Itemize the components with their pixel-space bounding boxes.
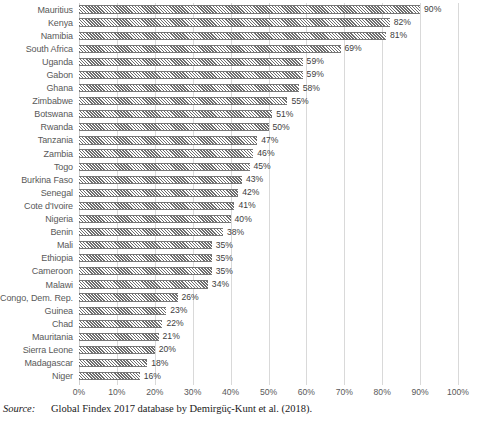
category-label: Kenya (0, 18, 76, 28)
bar-area: 26% (76, 291, 483, 304)
bar (79, 293, 178, 301)
bar-area: 20% (76, 343, 483, 356)
bar (79, 202, 234, 210)
category-label: Tanzania (0, 135, 76, 145)
bar-value-label: 21% (163, 331, 180, 342)
bar-area: 16% (76, 370, 483, 383)
bar (79, 320, 162, 328)
bar (79, 18, 390, 26)
bar (79, 5, 420, 13)
bar (79, 110, 272, 118)
category-label: Mauritius (0, 5, 76, 15)
category-label: Congo, Dem. Rep. (0, 293, 76, 303)
bar-chart-figure: Mauritius90%Kenya82%Namibia81%South Afri… (0, 0, 483, 422)
bar-area: 45% (76, 160, 483, 173)
category-label: Zambia (0, 149, 76, 159)
bar-value-label: 46% (257, 148, 274, 159)
chart-row: Ethiopia35% (0, 252, 483, 265)
category-label: Botswana (0, 109, 76, 119)
bar (79, 71, 303, 79)
bar-area: 23% (76, 304, 483, 317)
category-label: Mauritania (0, 332, 76, 342)
chart-row: Zimbabwe55% (0, 95, 483, 108)
bar (79, 267, 212, 275)
bar (79, 97, 287, 105)
bar-value-label: 34% (212, 279, 229, 290)
category-label: Uganda (0, 57, 76, 67)
chart-row: Nigeria40% (0, 213, 483, 226)
x-tick-label: 90% (411, 386, 428, 398)
chart-row: Guinea23% (0, 304, 483, 317)
bar (79, 359, 147, 367)
bar-value-label: 23% (170, 305, 187, 316)
plot-region: Mauritius90%Kenya82%Namibia81%South Afri… (0, 3, 483, 385)
bar (79, 149, 253, 157)
bar-area: 51% (76, 108, 483, 121)
category-label: Namibia (0, 31, 76, 41)
category-label: Senegal (0, 188, 76, 198)
x-tick-label: 30% (184, 386, 201, 398)
bar-value-label: 26% (182, 292, 199, 303)
bar-value-label: 22% (166, 318, 183, 329)
source-note: Source:Global Findex 2017 database by De… (3, 402, 473, 415)
x-axis: 0%10%20%30%40%50%60%70%80%90%100% (0, 386, 483, 400)
bar-value-label: 42% (242, 187, 259, 198)
bar (79, 58, 303, 66)
bar-value-label: 18% (151, 358, 168, 369)
chart-row: Zambia46% (0, 147, 483, 160)
bar-area: 42% (76, 186, 483, 199)
category-label: South Africa (0, 44, 76, 54)
bar (79, 163, 250, 171)
bar-area: 35% (76, 239, 483, 252)
bar (79, 136, 257, 144)
chart-row: Gabon59% (0, 68, 483, 81)
source-text: Global Findex 2017 database by Demirgüç-… (51, 403, 312, 414)
category-label: Mali (0, 240, 76, 250)
bar-area: 35% (76, 252, 483, 265)
bar-area: 43% (76, 173, 483, 186)
category-label: Rwanda (0, 122, 76, 132)
bar-value-label: 82% (394, 17, 411, 28)
bar-area: 41% (76, 199, 483, 212)
bar-area: 35% (76, 265, 483, 278)
chart-row: Namibia81% (0, 29, 483, 42)
source-label: Source: (3, 402, 51, 415)
chart-row: Malawi34% (0, 278, 483, 291)
category-label: Madagascar (0, 358, 76, 368)
bar-area: 47% (76, 134, 483, 147)
bar-value-label: 38% (227, 227, 244, 238)
bar-area: 22% (76, 317, 483, 330)
bar-area: 50% (76, 121, 483, 134)
bar (79, 241, 212, 249)
bar-value-label: 16% (144, 371, 161, 382)
chart-row: Chad22% (0, 317, 483, 330)
chart-row: Madagascar18% (0, 357, 483, 370)
chart-row: South Africa69% (0, 42, 483, 55)
chart-row: Burkina Faso43% (0, 173, 483, 186)
x-tick-label: 60% (298, 386, 315, 398)
bar (79, 123, 269, 131)
chart-row: Ghana58% (0, 82, 483, 95)
bar-value-label: 59% (307, 69, 324, 80)
category-label: Togo (0, 162, 76, 172)
bar-area: 82% (76, 16, 483, 29)
category-label: Ethiopia (0, 253, 76, 263)
chart-row: Cameroon35% (0, 265, 483, 278)
bar-area: 81% (76, 29, 483, 42)
category-label: Nigeria (0, 214, 76, 224)
category-label: Ghana (0, 83, 76, 93)
category-label: Benin (0, 227, 76, 237)
chart-row: Cote d'Ivoire41% (0, 199, 483, 212)
x-tick-label: 20% (146, 386, 163, 398)
bar-value-label: 50% (273, 122, 290, 133)
chart-row: Mali35% (0, 239, 483, 252)
bar-value-label: 51% (276, 109, 293, 120)
category-label: Cameroon (0, 266, 76, 276)
x-tick-label: 0% (73, 386, 85, 398)
chart-row: Congo, Dem. Rep.26% (0, 291, 483, 304)
bar-value-label: 45% (254, 161, 271, 172)
bar-area: 69% (76, 42, 483, 55)
bar-value-label: 90% (424, 4, 441, 15)
bar (79, 189, 238, 197)
chart-row: Mauritius90% (0, 3, 483, 16)
